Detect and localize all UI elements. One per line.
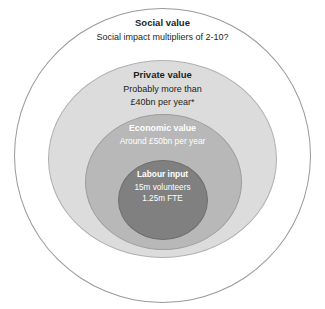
private-value-heading: Private value (0, 68, 325, 81)
labour-input-line-1: 15m volunteers (0, 182, 325, 193)
labour-input-line-2: 1.25m FTE (0, 193, 325, 204)
concentric-value-diagram: Social value Social impact multipliers o… (0, 0, 325, 309)
economic-value-line-1: Around £50bn per year (0, 136, 325, 148)
social-value-line-1: Social impact multipliers of 2-10? (0, 31, 325, 43)
label-labour-input: Labour input 15m volunteers 1.25m FTE (0, 169, 325, 204)
label-private-value: Private value Probably more than £40bn p… (0, 68, 325, 108)
label-economic-value: Economic value Around £50bn per year (0, 122, 325, 148)
private-value-line-2: £40bn per year* (0, 96, 325, 108)
labour-input-heading: Labour input (0, 169, 325, 181)
label-social-value: Social value Social impact multipliers o… (0, 16, 325, 44)
social-value-heading: Social value (0, 16, 325, 29)
private-value-line-1: Probably more than (0, 83, 325, 95)
economic-value-heading: Economic value (0, 122, 325, 134)
